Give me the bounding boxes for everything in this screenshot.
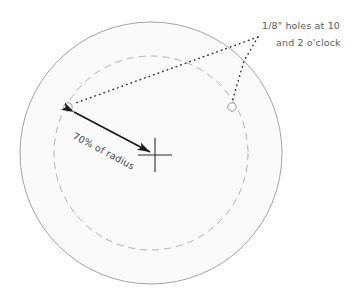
holes-annotation-line-2: and 2 o'clock [276, 37, 341, 48]
diagram-canvas: 70% of radius 1/8" holes at 10 and 2 o'c… [0, 0, 361, 295]
hole-10-oclock-icon [64, 103, 72, 111]
hole-2-oclock-icon [228, 103, 236, 111]
holes-annotation-line-1: 1/8" holes at 10 [262, 20, 340, 31]
disc-outline-circle [20, 22, 282, 284]
technical-diagram: 70% of radius 1/8" holes at 10 and 2 o'c… [0, 0, 361, 295]
